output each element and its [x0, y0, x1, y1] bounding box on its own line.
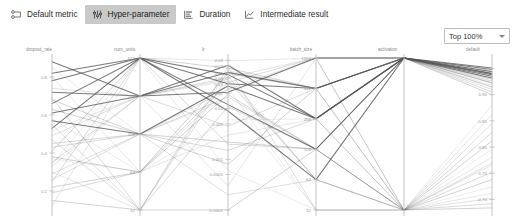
run-line[interactable] — [52, 58, 492, 182]
duration-icon — [183, 9, 194, 20]
tick-label: 0.07 — [214, 64, 223, 69]
tick-label: 0.005 — [212, 122, 224, 127]
tab-hyper-parameter[interactable]: Hyper-parameter — [85, 5, 177, 24]
tab-label: Duration — [199, 10, 230, 19]
metric-icon — [11, 9, 22, 20]
tick-label: 512 — [128, 56, 136, 61]
tick-label: 0.2 — [41, 189, 48, 194]
tick-label: 0.001 — [212, 157, 224, 162]
tab-default-metric[interactable]: Default metric — [4, 5, 85, 24]
tick-label: 32 — [306, 208, 311, 213]
run-line[interactable] — [52, 58, 492, 149]
tab-intermediate-result[interactable]: Intermediate result — [237, 5, 335, 24]
tick-label: 32 — [130, 208, 135, 213]
tick-label: 256 — [304, 117, 312, 122]
tick-label: 0.75 — [478, 171, 487, 176]
run-line[interactable] — [52, 58, 492, 149]
tick-label: 512 — [304, 86, 312, 91]
tick-label: 0.6 — [41, 113, 48, 118]
hyperparameter-icon — [92, 9, 103, 20]
tick-label: 0.0001 — [210, 208, 224, 213]
tick-label: 0.70 — [478, 197, 487, 202]
tab-label: Intermediate result — [260, 10, 328, 19]
axis-title-lr: lr — [202, 47, 205, 52]
top-percent-value: Top 100% — [449, 32, 482, 41]
axis-title-num_units: num_units — [114, 47, 136, 52]
run-line[interactable] — [52, 119, 492, 210]
tick-label: 0.0005 — [210, 172, 224, 177]
run-line[interactable] — [52, 98, 492, 210]
run-line[interactable] — [52, 58, 492, 180]
tick-label: 64 — [130, 170, 135, 175]
tab-label: Hyper-parameter — [108, 10, 170, 19]
chevron-down-icon — [499, 35, 505, 38]
tick-label: 128 — [304, 147, 312, 152]
tick-label: 0.8 — [41, 75, 48, 80]
tick-label: 0.02 — [214, 91, 223, 96]
tick-label: 0.09 — [214, 58, 223, 63]
tick-label: 256 — [128, 94, 136, 99]
tick-label: 0.85 — [478, 119, 487, 124]
tab-label: Default metric — [27, 10, 78, 19]
view-tabs-toolbar: Default metric Hyper-parameter Duration — [0, 0, 518, 28]
tick-label: 0.90 — [478, 92, 487, 97]
tick-label: 64 — [306, 177, 311, 182]
run-line[interactable] — [52, 58, 492, 149]
parallel-coordinates-svg[interactable]: dropout_rate0.80.60.40.2num_units5122561… — [0, 46, 518, 221]
tick-label: 0.04 — [214, 76, 223, 81]
tick-label: 0.01 — [214, 106, 223, 111]
tick-label: 1024 — [301, 56, 311, 61]
intermediate-result-icon — [244, 9, 255, 20]
parallel-coordinates-chart[interactable]: dropout_rate0.80.60.40.2num_units5122561… — [0, 46, 518, 221]
tick-label: 0.80 — [478, 145, 487, 150]
axis-title-dropout_rate: dropout_rate — [26, 47, 52, 52]
tab-duration[interactable]: Duration — [176, 5, 237, 24]
axis-title-batch_size: batch_size — [290, 47, 312, 52]
run-lines-layer — [52, 58, 492, 210]
tick-label: 0.4 — [41, 151, 48, 156]
top-percent-select[interactable]: Top 100% — [444, 28, 510, 44]
tick-label: 128 — [128, 132, 136, 137]
tick-label: 0.95 — [478, 66, 487, 71]
axis-title-activation: activation — [378, 47, 398, 52]
axis-title-default: default — [466, 47, 481, 52]
run-line[interactable] — [52, 58, 492, 187]
tick-label: 0.03 — [214, 82, 223, 87]
